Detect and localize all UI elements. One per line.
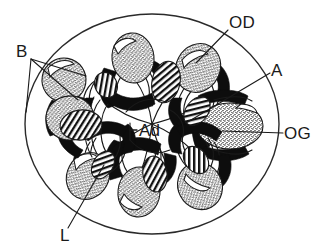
label-L: L [60, 226, 70, 245]
label-OD: OD [229, 13, 255, 32]
label-Ad: Ad [139, 121, 160, 140]
label-A: A [271, 61, 283, 80]
label-B: B [16, 42, 28, 61]
anatomical-diagram: B OD A OG Ad L [0, 0, 320, 250]
figure-root: B OD A OG Ad L [0, 0, 320, 250]
label-OG: OG [284, 124, 311, 143]
